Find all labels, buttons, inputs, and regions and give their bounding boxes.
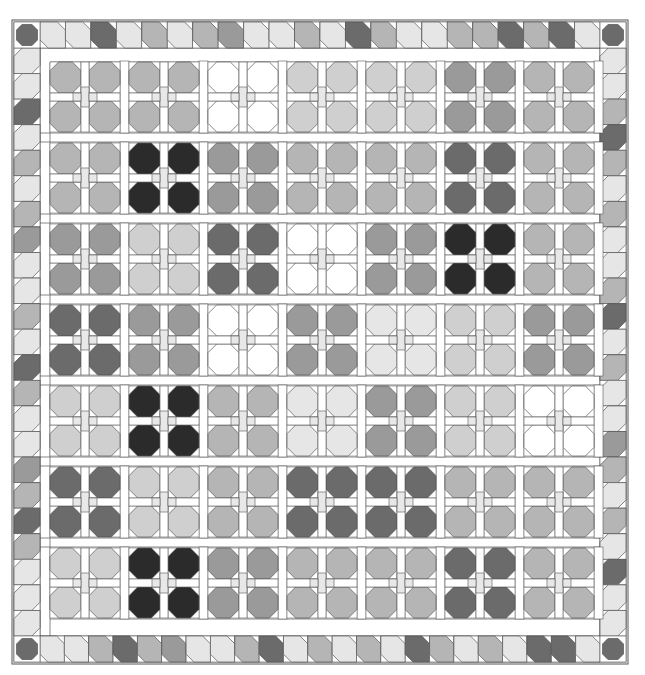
snowball-patch [405, 506, 436, 537]
vertical-sash [199, 61, 208, 133]
snowball-patch [129, 263, 160, 294]
snowball-patch [563, 224, 594, 255]
block-center-square [89, 93, 97, 101]
vertical-sash [515, 223, 524, 295]
border-left-cell [14, 253, 40, 279]
border-left-cell [14, 431, 40, 457]
snowball-patch [287, 182, 318, 213]
block-center-strip [397, 87, 405, 107]
snowball-patch [208, 344, 239, 375]
block-center-square [310, 417, 318, 425]
vertical-sash [120, 385, 129, 457]
border-left-cell [14, 150, 40, 176]
snowball-patch [405, 224, 436, 255]
snowball-patch [405, 548, 436, 579]
snowball-patch [524, 62, 555, 93]
block-center-strip [397, 573, 405, 593]
vertical-sash [436, 385, 445, 457]
snowball-patch [129, 344, 160, 375]
vertical-sash [278, 466, 287, 538]
snowball-patch [445, 587, 476, 618]
block-center-square [563, 93, 571, 101]
snowball-patch [287, 587, 318, 618]
block-center-strip [555, 168, 563, 188]
border-bottom-cell [357, 636, 381, 662]
snowball-patch [524, 143, 555, 174]
block-center-square [247, 498, 255, 506]
snowball-patch [50, 62, 81, 93]
border-top-cell [575, 22, 600, 48]
block-center-square [89, 417, 97, 425]
snowball-patch [563, 263, 594, 294]
snowball-patch [366, 548, 397, 579]
border-top-cell [549, 22, 574, 48]
block-center-square [547, 255, 555, 263]
snowball-patch [168, 143, 199, 174]
block-center-square [389, 93, 397, 101]
snowball-patch [50, 548, 81, 579]
snowball-patch [326, 506, 357, 537]
snowball-patch [89, 344, 120, 375]
snowball-patch [524, 305, 555, 336]
vertical-sash [436, 466, 445, 538]
snowball-patch [445, 143, 476, 174]
block-center-strip [476, 249, 484, 269]
border-bottom-cell [137, 636, 161, 662]
snowball-patch [287, 224, 318, 255]
block-center-square [468, 417, 476, 425]
snowball-patch [247, 386, 278, 417]
corner-diamond [602, 638, 623, 659]
block-center-square [310, 255, 318, 263]
block-center-strip [397, 411, 405, 431]
vertical-sash [594, 466, 603, 538]
block-center-square [326, 336, 334, 344]
block-center-strip [397, 330, 405, 350]
border-left-cell [14, 457, 40, 483]
snowball-patch [366, 101, 397, 132]
block-center-square [168, 336, 176, 344]
vertical-sash [357, 142, 366, 214]
snowball-patch [247, 143, 278, 174]
border-right-cell [600, 278, 626, 304]
block-center-strip [160, 87, 168, 107]
snowball-patch [326, 62, 357, 93]
snowball-patch [524, 587, 555, 618]
border-bottom-cell [113, 636, 137, 662]
block-center-square [326, 255, 334, 263]
snowball-patch [366, 506, 397, 537]
block-center-square [247, 579, 255, 587]
snowball-patch [524, 182, 555, 213]
vertical-sash [199, 304, 208, 376]
snowball-patch [445, 101, 476, 132]
snowball-patch [129, 506, 160, 537]
vertical-sash [199, 547, 208, 619]
snowball-patch [50, 101, 81, 132]
block-center-strip [160, 411, 168, 431]
border-right-cell [600, 201, 626, 227]
snowball-patch [445, 305, 476, 336]
block-center-square [389, 336, 397, 344]
snowball-patch [445, 467, 476, 498]
snowball-patch [524, 386, 555, 417]
vertical-sash [594, 142, 603, 214]
border-bottom-cell [283, 636, 307, 662]
block-center-square [168, 417, 176, 425]
border-top-cell [244, 22, 269, 48]
border-bottom-cell [551, 636, 575, 662]
snowball-patch [208, 143, 239, 174]
snowball-patch [89, 425, 120, 456]
block-center-square [231, 174, 239, 182]
block-center-strip [239, 573, 247, 593]
border-left-cell [14, 125, 40, 151]
snowball-patch [445, 344, 476, 375]
border-right-cell [600, 431, 626, 457]
vertical-sash [594, 61, 603, 133]
block-center-strip [81, 492, 89, 512]
vertical-sash [199, 466, 208, 538]
snowball-patch [405, 587, 436, 618]
block-center-strip [555, 492, 563, 512]
snowball-patch [287, 143, 318, 174]
block-center-square [468, 174, 476, 182]
snowball-patch [524, 344, 555, 375]
vertical-sash [357, 385, 366, 457]
